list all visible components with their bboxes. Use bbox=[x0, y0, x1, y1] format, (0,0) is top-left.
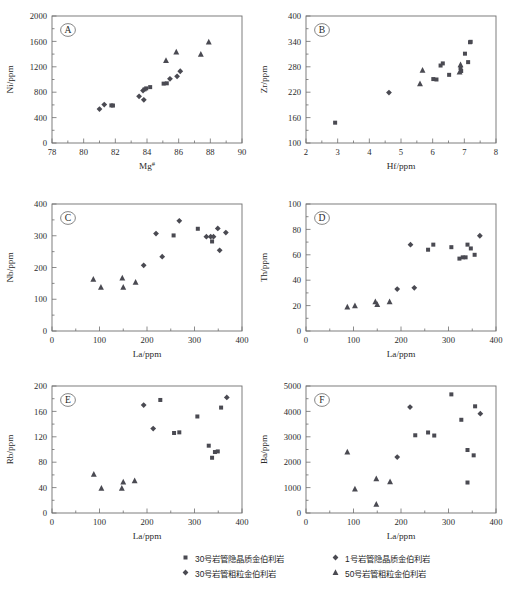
y-axis-title: Ba/ppm bbox=[259, 435, 269, 464]
series-square bbox=[158, 398, 223, 460]
panel-letter-label: E bbox=[65, 394, 71, 405]
y-axis-tick-label: 200 bbox=[34, 263, 47, 273]
x-axis-tick-label: 100 bbox=[93, 517, 106, 527]
data-point-square bbox=[426, 430, 430, 434]
y-axis-tick-label: 160 bbox=[288, 113, 301, 123]
data-point-square bbox=[210, 239, 214, 243]
scatter-plot-a: 788082848688900400800120016002000Mg#Ni/p… bbox=[0, 2, 254, 183]
data-point-triangle bbox=[132, 477, 138, 483]
scatter-plot-e: 010020030040004080120160200La/ppmRb/ppmE bbox=[0, 372, 254, 553]
data-point-square bbox=[207, 444, 211, 448]
x-axis-title: La/ppm bbox=[133, 349, 162, 359]
y-axis-tick-label: 100 bbox=[34, 294, 47, 304]
chart-panel-a: 788082848688900400800120016002000Mg#Ni/p… bbox=[0, 2, 254, 183]
data-point-diamond bbox=[411, 285, 417, 291]
plot-frame bbox=[306, 204, 496, 331]
x-axis-tick-label: 80 bbox=[79, 147, 88, 157]
data-point-square bbox=[195, 414, 199, 418]
y-axis-tick-label: 340 bbox=[288, 37, 301, 47]
x-axis-tick-label: 300 bbox=[188, 335, 201, 345]
data-point-square bbox=[473, 404, 477, 408]
data-point-diamond bbox=[150, 426, 156, 432]
legend-column-right: 1号岩管隐晶质金伯利岩 50号岩管粗粒金伯利岩 bbox=[330, 550, 430, 580]
data-point-square bbox=[165, 81, 169, 85]
data-point-triangle bbox=[120, 284, 126, 290]
data-point-square bbox=[449, 245, 453, 249]
data-point-square bbox=[426, 248, 430, 252]
x-axis-tick-label: 400 bbox=[236, 335, 249, 345]
series-triangle bbox=[90, 275, 138, 290]
data-point-diamond bbox=[153, 231, 159, 237]
series-diamond bbox=[394, 233, 482, 292]
data-point-square bbox=[216, 449, 220, 453]
data-point-square bbox=[466, 243, 470, 247]
data-point-triangle bbox=[387, 299, 393, 305]
data-point-diamond bbox=[217, 247, 223, 253]
y-axis-tick-label: 0 bbox=[43, 326, 47, 336]
series-square bbox=[426, 243, 477, 261]
data-point-square bbox=[472, 453, 476, 457]
data-point-square bbox=[219, 406, 223, 410]
chart-panel-f: 0100200300400010002000300040005000La/ppm… bbox=[254, 372, 508, 553]
data-point-triangle bbox=[417, 81, 423, 87]
y-axis-tick-label: 5000 bbox=[284, 381, 301, 391]
y-axis-tick-label: 400 bbox=[34, 113, 47, 123]
y-axis-tick-label: 0 bbox=[43, 138, 47, 148]
x-axis-tick-label: 0 bbox=[304, 517, 308, 527]
scatter-plot-f: 0100200300400010002000300040005000La/ppm… bbox=[254, 372, 508, 553]
data-point-square bbox=[466, 481, 470, 485]
data-point-square bbox=[172, 431, 176, 435]
scatter-plot-b: 2345678100160220280340400Hf/ppmZr/ppmB bbox=[254, 2, 508, 183]
data-point-square bbox=[196, 227, 200, 231]
y-axis-tick-label: 60 bbox=[292, 250, 301, 260]
x-axis-tick-label: 200 bbox=[395, 517, 408, 527]
x-axis-tick-label: 8 bbox=[494, 147, 498, 157]
x-axis-tick-label: 200 bbox=[141, 517, 154, 527]
y-axis-tick-label: 100 bbox=[288, 199, 301, 209]
x-axis-tick-label: 4 bbox=[367, 147, 372, 157]
data-point-square bbox=[473, 253, 477, 257]
plot-frame bbox=[52, 16, 242, 143]
legend-marker-triangle-icon bbox=[330, 567, 341, 578]
data-point-diamond bbox=[136, 93, 142, 99]
y-axis-tick-label: 3000 bbox=[284, 432, 301, 442]
y-axis-tick-label: 800 bbox=[34, 87, 47, 97]
data-point-square bbox=[459, 418, 463, 422]
y-axis-title: Zr/ppm bbox=[259, 66, 269, 94]
x-axis-tick-label: 90 bbox=[238, 147, 247, 157]
legend-item: 50号岩管粗粒金伯利岩 bbox=[330, 565, 430, 580]
data-point-square bbox=[447, 73, 451, 77]
chart-panel-d: 0100200300400020406080100La/ppmTh/ppmD bbox=[254, 190, 508, 371]
data-point-triangle bbox=[119, 485, 125, 491]
y-axis-title: Th/ppm bbox=[259, 253, 269, 282]
x-axis-tick-label: 78 bbox=[48, 147, 57, 157]
x-axis-tick-label: 2 bbox=[304, 147, 308, 157]
data-point-diamond bbox=[141, 402, 147, 408]
data-point-diamond bbox=[215, 226, 221, 232]
series-triangle bbox=[91, 471, 138, 491]
legend-marker-diamond-icon bbox=[180, 567, 191, 578]
data-point-square bbox=[210, 456, 214, 460]
legend-item-label: 30号岩管隐晶质金伯利岩 bbox=[195, 552, 284, 564]
data-point-diamond bbox=[223, 230, 229, 236]
data-point-triangle bbox=[98, 485, 104, 491]
panel-letter-label: C bbox=[65, 212, 71, 223]
x-axis-tick-label: 3 bbox=[336, 147, 340, 157]
x-axis-tick-label: 100 bbox=[93, 335, 106, 345]
data-point-triangle bbox=[173, 49, 179, 55]
x-axis-tick-label: 100 bbox=[347, 517, 360, 527]
data-point-diamond bbox=[386, 90, 392, 96]
series-diamond bbox=[141, 395, 230, 432]
legend-item-label: 50号岩管粗粒金伯利岩 bbox=[345, 567, 426, 579]
y-axis-tick-label: 40 bbox=[38, 483, 47, 493]
data-point-square bbox=[148, 85, 152, 89]
y-axis-tick-label: 1200 bbox=[30, 62, 47, 72]
x-axis-tick-label: 400 bbox=[490, 335, 503, 345]
chart-panel-e: 010020030040004080120160200La/ppmRb/ppmE bbox=[0, 372, 254, 553]
y-axis-tick-label: 400 bbox=[288, 11, 301, 21]
x-axis-tick-label: 6 bbox=[431, 147, 436, 157]
data-point-triangle bbox=[333, 569, 339, 575]
plot-frame bbox=[52, 386, 242, 513]
panel-letter-label: B bbox=[319, 24, 325, 35]
y-axis-tick-label: 300 bbox=[34, 231, 47, 241]
